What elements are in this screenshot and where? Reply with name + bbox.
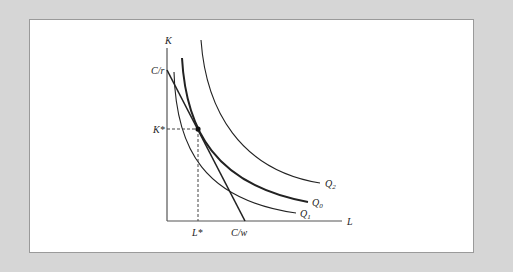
isoquant-q0-label: Q0 <box>312 197 323 210</box>
isoquant-q2-label: Q2 <box>325 178 336 191</box>
optimum-point <box>195 126 200 131</box>
l-star-label: L* <box>191 227 203 238</box>
isocost-line <box>167 70 245 221</box>
isocost-x-intercept-label: C/w <box>231 227 247 238</box>
isoquant-q1 <box>174 72 296 213</box>
isoquant-diagram: K L C/r C/w K* L* Q2 Q0 Q1 <box>0 0 513 272</box>
k-star-label: K* <box>152 124 165 135</box>
y-axis-label: K <box>164 35 173 46</box>
isoquant-q2 <box>201 40 320 183</box>
isocost-y-intercept-label: C/r <box>151 65 164 76</box>
isoquant-q0 <box>182 58 308 202</box>
x-axis-label: L <box>346 216 353 227</box>
isoquant-q1-label: Q1 <box>300 208 311 221</box>
